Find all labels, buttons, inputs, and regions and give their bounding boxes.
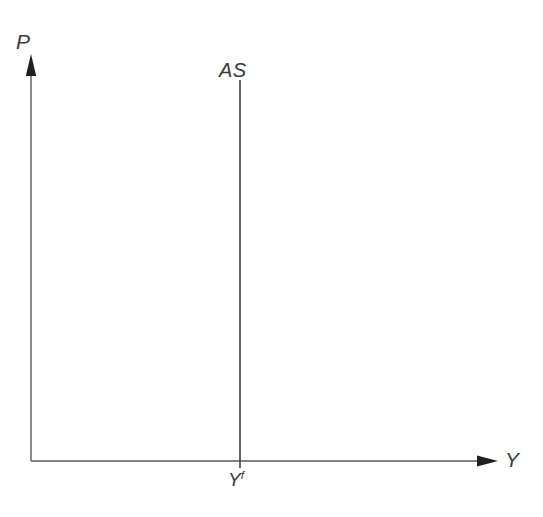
horizontal-axis-label: Y	[505, 449, 520, 470]
vertical-axis-arrow-icon	[26, 54, 36, 76]
aggregate-supply-diagram: P Y AS Yf	[0, 0, 543, 517]
diagram-canvas	[0, 0, 543, 517]
full-employment-output-base: Y	[228, 469, 241, 490]
full-employment-output-label: Yf	[228, 470, 244, 489]
horizontal-axis-arrow-icon	[477, 456, 498, 467]
full-employment-output-superscript: f	[241, 468, 244, 481]
vertical-axis-label: P	[16, 31, 31, 52]
aggregate-supply-curve-label: AS	[219, 60, 247, 80]
